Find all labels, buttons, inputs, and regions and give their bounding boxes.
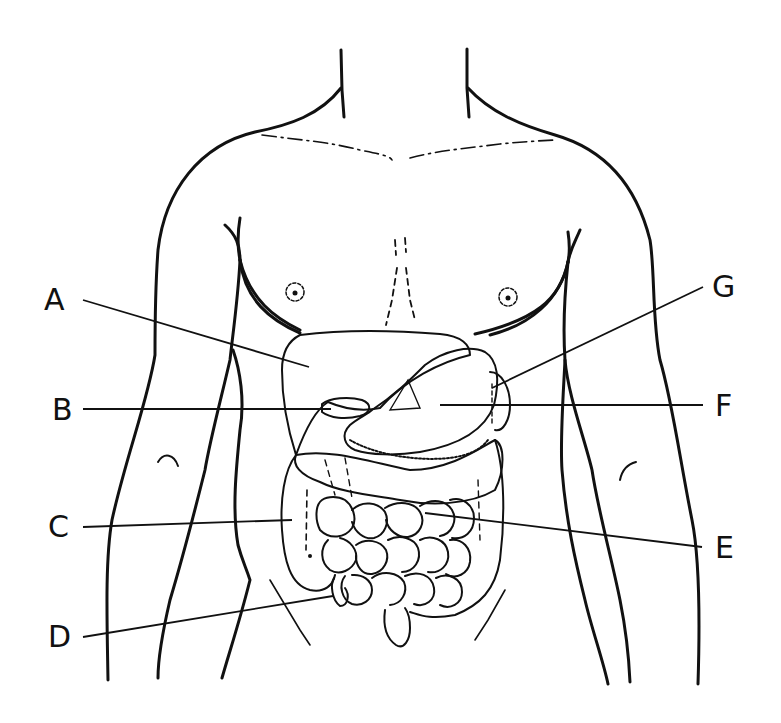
- nipples: [286, 283, 517, 306]
- leader-A: [83, 300, 309, 367]
- label-b: B: [52, 395, 73, 425]
- label-e: E: [715, 533, 734, 563]
- anatomy-diagram: [0, 0, 781, 723]
- leader-E: [425, 513, 702, 547]
- neck-outline: [341, 49, 469, 117]
- label-a: A: [44, 285, 65, 315]
- rectum: [384, 608, 410, 646]
- leader-D: [83, 596, 333, 637]
- leader-G: [492, 287, 703, 388]
- small-intestine: [316, 497, 474, 607]
- stomach: [345, 349, 498, 455]
- label-f: F: [715, 391, 732, 421]
- label-c: C: [48, 512, 69, 542]
- ascending-colon: [282, 455, 335, 591]
- label-d: D: [48, 622, 71, 652]
- leader-C: [83, 520, 292, 527]
- label-g: G: [712, 272, 735, 302]
- descending-colon: [410, 440, 503, 617]
- transverse-colon: [295, 440, 503, 503]
- sternum-lines: [386, 238, 415, 325]
- liver: [282, 331, 470, 455]
- appendix: [332, 578, 348, 606]
- clavicle-lines: [262, 135, 555, 160]
